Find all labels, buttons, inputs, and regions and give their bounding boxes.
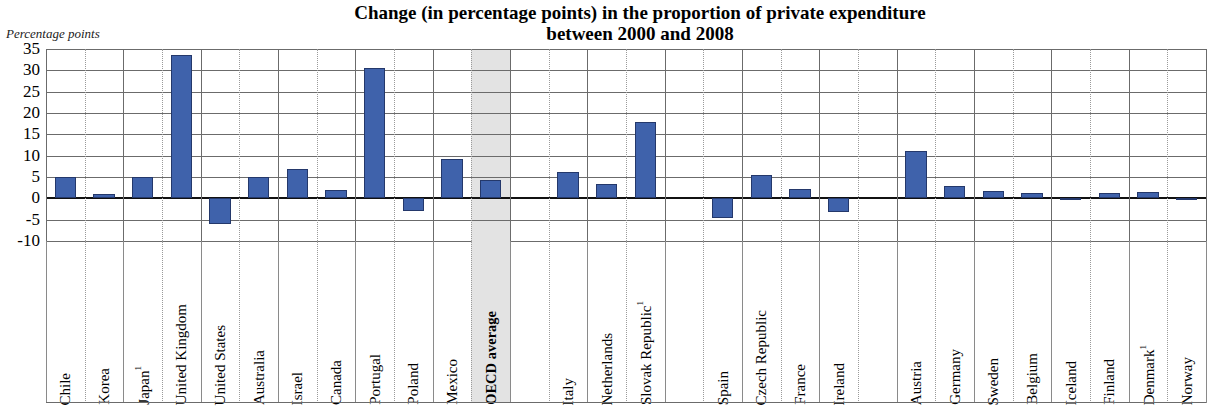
label-vertical-separator	[549, 241, 551, 403]
chart-title: Change (in percentage points) in the pro…	[190, 2, 1090, 44]
label-band-bottom-border	[46, 402, 1206, 403]
grid-vertical-separator	[471, 49, 473, 241]
grid-vertical-separator	[201, 49, 202, 241]
category-label-france: France	[793, 364, 808, 405]
bar-oecd-average[interactable]	[480, 180, 502, 198]
grid-vertical-separator	[858, 49, 860, 241]
label-vertical-separator	[1206, 241, 1207, 403]
bar-spain[interactable]	[712, 198, 734, 217]
category-label-slovak-republic: Slovak Republic1	[636, 301, 654, 405]
category-label-netherlands: Netherlands	[599, 333, 614, 405]
label-vertical-separator	[935, 241, 937, 403]
bar-canada[interactable]	[325, 190, 347, 199]
category-label-sweden: Sweden	[986, 358, 1001, 406]
chart-title-line-2: between 2000 and 2008	[546, 23, 733, 44]
y-axis-tick-label: -10	[2, 231, 40, 251]
chart-page: Change (in percentage points) in the pro…	[0, 0, 1216, 411]
grid-vertical-separator	[355, 49, 356, 241]
y-axis-tick-label: 0	[2, 188, 40, 208]
label-vertical-separator	[433, 241, 434, 403]
bar-chile[interactable]	[55, 177, 77, 198]
bar-korea[interactable]	[93, 194, 115, 198]
category-label-poland: Poland	[406, 363, 421, 405]
bar-poland[interactable]	[403, 198, 425, 211]
grid-vertical-separator	[394, 49, 396, 241]
label-vertical-separator	[355, 241, 356, 403]
category-label-spain: Spain	[715, 371, 730, 405]
label-vertical-separator	[587, 241, 588, 403]
bar-united-states[interactable]	[209, 198, 231, 224]
grid-vertical-separator	[85, 49, 87, 241]
label-vertical-separator	[510, 241, 511, 403]
grid-vertical-separator	[1090, 49, 1092, 241]
bar-japan[interactable]	[132, 177, 154, 198]
category-label-united-states: United States	[213, 325, 228, 405]
label-vertical-separator	[626, 241, 628, 403]
y-axis-tick-label: 10	[2, 146, 40, 166]
bar-france[interactable]	[789, 189, 811, 198]
category-label-japan: Japan1	[134, 366, 152, 405]
bar-norway[interactable]	[1176, 198, 1198, 200]
label-vertical-separator	[1129, 241, 1130, 403]
category-label-czech-republic: Czech Republic	[754, 310, 769, 405]
y-axis-tick-label: 15	[2, 124, 40, 144]
label-vertical-separator	[897, 241, 898, 403]
bar-denmark[interactable]	[1137, 192, 1159, 199]
bar-iceland[interactable]	[1060, 198, 1082, 200]
label-vertical-separator	[819, 241, 820, 403]
grid-vertical-separator	[123, 49, 124, 241]
label-vertical-separator	[665, 241, 666, 403]
bar-italy[interactable]	[557, 172, 579, 198]
label-vertical-separator	[239, 241, 241, 403]
bar-netherlands[interactable]	[596, 184, 618, 199]
grid-vertical-separator	[278, 49, 279, 241]
bar-mexico[interactable]	[441, 159, 463, 198]
category-label-germany: Germany	[947, 349, 962, 405]
grid-vertical-separator	[935, 49, 937, 241]
category-label-iceland: Iceland	[1063, 361, 1078, 405]
category-label-finland: Finland	[1102, 359, 1117, 405]
grid-vertical-separator	[433, 49, 434, 241]
y-axis-tick-label: -5	[2, 210, 40, 230]
category-label-korea: Korea	[97, 368, 112, 405]
category-label-area: ChileKoreaJapan1United KingdomUnited Sta…	[46, 241, 1206, 407]
label-vertical-separator	[1013, 241, 1015, 403]
grid-vertical-separator	[549, 49, 551, 241]
bar-united-kingdom[interactable]	[171, 55, 193, 198]
category-label-australia: Australia	[251, 350, 266, 405]
bar-sweden[interactable]	[983, 191, 1005, 198]
bar-austria[interactable]	[905, 151, 927, 198]
chart-title-line-1: Change (in percentage points) in the pro…	[354, 2, 926, 23]
label-vertical-separator	[394, 241, 396, 403]
grid-vertical-separator	[742, 49, 743, 241]
category-label-belgium: Belgium	[1025, 353, 1040, 405]
bar-israel[interactable]	[287, 169, 309, 198]
bar-australia[interactable]	[248, 177, 270, 198]
category-label-israel: Israel	[290, 372, 305, 405]
category-label-denmark: Denmark1	[1139, 345, 1157, 405]
y-axis-tick-label: 30	[2, 60, 40, 80]
category-label-italy: Italy	[561, 378, 576, 406]
grid-vertical-separator	[162, 49, 164, 241]
bar-finland[interactable]	[1099, 193, 1121, 199]
bar-slovak-republic[interactable]	[635, 122, 657, 199]
label-vertical-separator	[85, 241, 87, 403]
bar-belgium[interactable]	[1021, 193, 1043, 198]
bar-czech-republic[interactable]	[751, 175, 773, 198]
grid-vertical-separator	[819, 49, 820, 241]
grid-vertical-separator	[781, 49, 783, 241]
label-vertical-separator	[278, 241, 279, 403]
label-vertical-separator	[974, 241, 975, 403]
bar-portugal[interactable]	[364, 68, 386, 198]
label-vertical-separator	[1167, 241, 1169, 403]
label-vertical-separator	[1051, 241, 1052, 403]
plot-area: 35302520151050-5-10	[46, 49, 1206, 241]
category-label-mexico: Mexico	[445, 359, 460, 405]
label-vertical-separator	[781, 241, 783, 403]
footnote-marker: 1	[635, 301, 645, 306]
grid-vertical-separator	[897, 49, 898, 241]
bar-germany[interactable]	[944, 186, 966, 198]
category-label-oecd-average: OECD average	[483, 311, 498, 405]
label-vertical-separator	[201, 241, 202, 403]
bar-ireland[interactable]	[828, 198, 850, 212]
